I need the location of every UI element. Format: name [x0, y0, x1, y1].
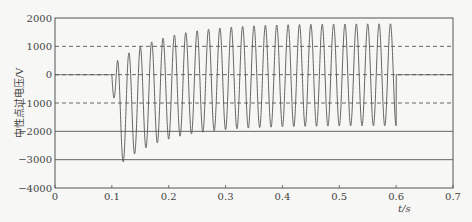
x-tick-label: 0.3: [218, 191, 234, 202]
x-tick-label: 0.7: [445, 191, 461, 202]
y-tick-label: 0: [46, 69, 52, 80]
x-axis-label: t/s: [398, 203, 411, 214]
voltage-waveform: [55, 24, 453, 162]
y-tick-label: −3000: [18, 154, 52, 165]
x-tick-label: 0.4: [274, 191, 290, 202]
y-tick-label: 1000: [27, 41, 52, 52]
x-tick-label: 0: [52, 191, 58, 202]
chart: 00.10.20.30.40.50.60.7 −4000−3000−2000−1…: [0, 0, 472, 222]
y-tick-label: 2000: [27, 13, 52, 24]
x-tick-label: 0.1: [104, 191, 120, 202]
y-axis-label: 中性点过电压/V: [13, 67, 25, 138]
x-tick-label: 0.5: [331, 191, 347, 202]
x-tick-label: 0.6: [388, 191, 404, 202]
y-tick-label: −4000: [18, 183, 52, 194]
x-tick-label: 0.2: [161, 191, 177, 202]
